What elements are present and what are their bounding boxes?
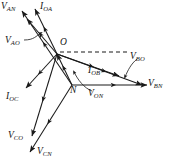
label-v-ao: VAO — [5, 36, 20, 46]
phasor-diagram: VAN VAO IOA IOC VCO VCN IOB VBO VBN VON … — [0, 0, 170, 165]
phasor-vector-canvas — [0, 0, 170, 165]
phasor-v-co — [32, 54, 57, 136]
label-v-on: VON — [88, 89, 103, 99]
label-subscript: ON — [94, 92, 103, 99]
label-base: V — [5, 35, 11, 45]
direction-arrow-i-oa — [42, 26, 49, 33]
label-v-cn: VCN — [37, 147, 52, 157]
label-base: V — [1, 1, 7, 11]
label-subscript: AN — [7, 5, 16, 12]
label-v-bo: VBO — [130, 52, 145, 62]
label-subscript: CN — [43, 150, 52, 157]
label-subscript: AO — [11, 39, 20, 46]
label-base: V — [148, 78, 154, 88]
label-subscript: OA — [43, 5, 52, 12]
label-subscript: BO — [136, 55, 145, 62]
label-base: V — [130, 51, 136, 61]
label-i-oa: IOA — [40, 2, 52, 12]
label-subscript: BN — [154, 82, 163, 89]
label-i-ob: IOB — [88, 66, 100, 76]
label-v-co: VCO — [8, 131, 23, 141]
phasor-v-cn — [30, 85, 72, 152]
label-subscript: CO — [14, 134, 23, 141]
direction-arrow-v-co — [40, 96, 46, 103]
label-point-n: N — [70, 86, 76, 96]
label-base: V — [8, 130, 14, 140]
label-v-bn: VBN — [148, 79, 162, 89]
label-i-oc: IOC — [6, 92, 19, 102]
label-subscript: OC — [9, 95, 18, 102]
label-subscript: OB — [91, 69, 100, 76]
label-base: V — [88, 88, 94, 98]
leader-v-ao — [24, 33, 41, 40]
label-point-o: O — [60, 38, 67, 48]
direction-arrow-v-cn — [45, 118, 52, 125]
label-v-an: VAN — [1, 2, 15, 12]
label-base: V — [37, 146, 43, 156]
